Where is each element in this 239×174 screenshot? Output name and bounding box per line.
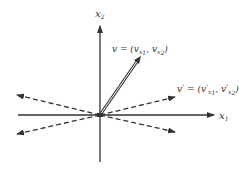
x1-axis-label: x1 — [219, 110, 228, 122]
origin-marker — [97, 113, 103, 117]
dashed-vector-lower-right — [100, 115, 175, 132]
vector-v-label: v = (vx1, vx2) — [112, 44, 168, 56]
vector-diagram: x2 x1 v = (vx1, vx2) v′ = (v′x1, v′x2) — [0, 0, 239, 174]
dashed-vector-lower-left — [17, 115, 100, 134]
vector-v-prime-label: v′ = (v′x1, v′x2) — [177, 84, 239, 96]
dashed-vector-upper-left — [17, 95, 100, 115]
x2-axis-label: x2 — [95, 8, 105, 20]
